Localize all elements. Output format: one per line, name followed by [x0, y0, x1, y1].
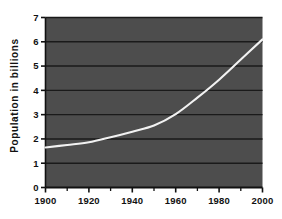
population-growth-chart: Population in billions 01234567190019201… [0, 0, 282, 219]
chart-canvas: 01234567190019201940196019802000 [0, 0, 282, 219]
x-tick-label: 1940 [121, 195, 143, 206]
x-tick-label: 1960 [165, 195, 187, 206]
y-tick-label: 4 [33, 85, 39, 96]
y-tick-label: 3 [33, 109, 38, 120]
x-tick-label: 1980 [208, 195, 230, 206]
y-tick-label: 5 [33, 60, 39, 71]
x-tick-label: 1900 [35, 195, 57, 206]
x-tick-label: 1920 [78, 195, 100, 206]
x-tick-label: 2000 [252, 195, 274, 206]
plot-background [46, 18, 263, 188]
y-tick-label: 1 [33, 158, 39, 169]
y-tick-label: 2 [33, 133, 38, 144]
y-tick-label: 6 [33, 36, 38, 47]
y-tick-label: 7 [33, 12, 38, 23]
y-tick-label: 0 [33, 182, 38, 193]
